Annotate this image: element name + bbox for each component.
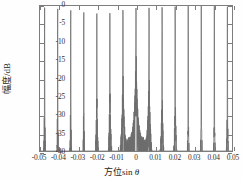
- y-tick-left: [40, 98, 44, 99]
- x-tick-bottom: [215, 147, 216, 151]
- x-tick-bottom: [176, 147, 177, 151]
- y-tick-right: [228, 24, 232, 25]
- x-tick-bottom: [118, 147, 119, 151]
- y-tick-left: [40, 43, 44, 44]
- x-tick-bottom: [40, 147, 41, 151]
- y-tick-label: 0: [61, 1, 65, 9]
- x-tick-label: 0: [134, 154, 138, 162]
- x-axis-title: 方位sin θ: [0, 165, 243, 178]
- x-tick-top: [156, 6, 157, 10]
- x-tick-label: 0.02: [169, 154, 181, 162]
- x-tick-top: [59, 6, 60, 10]
- y-axis-title-wrapper: 幅度/dB: [0, 0, 13, 157]
- y-tick-label: -40: [56, 148, 65, 156]
- x-tick-bottom: [137, 147, 138, 151]
- y-tick-left: [40, 24, 44, 25]
- x-tick-label: -0.03: [70, 154, 85, 162]
- y-tick-right: [228, 98, 232, 99]
- x-tick-top: [118, 6, 119, 10]
- x-tick-bottom: [156, 147, 157, 151]
- y-tick-label: -10: [56, 38, 65, 46]
- x-axis-title-text: 方位sin: [104, 167, 135, 177]
- y-tick-right: [228, 43, 232, 44]
- y-tick-left: [40, 116, 44, 117]
- y-tick-left: [40, 135, 44, 136]
- y-tick-label: -20: [56, 75, 65, 83]
- x-tick-top: [215, 6, 216, 10]
- x-tick-bottom: [234, 147, 235, 151]
- y-tick-left: [40, 80, 44, 81]
- x-tick-bottom: [98, 147, 99, 151]
- x-tick-top: [176, 6, 177, 10]
- y-tick-right: [228, 61, 232, 62]
- y-tick-left: [40, 6, 44, 7]
- x-tick-top: [79, 6, 80, 10]
- plot-area: [39, 5, 233, 152]
- x-tick-top: [98, 6, 99, 10]
- x-tick-bottom: [79, 147, 80, 151]
- x-tick-label: 0.03: [188, 154, 200, 162]
- x-tick-top: [195, 6, 196, 10]
- y-tick-left: [40, 61, 44, 62]
- x-tick-bottom: [195, 147, 196, 151]
- y-tick-label: -5: [59, 19, 65, 27]
- x-tick-top: [234, 6, 235, 10]
- beam-pattern-figure: -0.05-0.04-0.03-0.02-0.0100.010.020.030.…: [0, 0, 243, 181]
- x-tick-label: -0.02: [90, 154, 105, 162]
- y-tick-right: [228, 135, 232, 136]
- theta-symbol: θ: [135, 167, 139, 177]
- x-tick-top: [137, 6, 138, 10]
- y-axis-title: 幅度/dB: [0, 63, 13, 94]
- x-tick-label: 0.01: [149, 154, 161, 162]
- y-tick-right: [228, 116, 232, 117]
- y-tick-right: [228, 6, 232, 7]
- x-tick-label: -0.01: [109, 154, 124, 162]
- y-tick-label: -25: [56, 93, 65, 101]
- y-tick-right: [228, 80, 232, 81]
- x-tick-label: 0.05: [227, 154, 239, 162]
- x-tick-label: -0.05: [32, 154, 47, 162]
- beam-pattern-curve: [40, 6, 232, 151]
- y-tick-label: -35: [56, 130, 65, 138]
- x-tick-label: 0.04: [207, 154, 219, 162]
- y-tick-label: -30: [56, 111, 65, 119]
- y-tick-label: -15: [56, 56, 65, 64]
